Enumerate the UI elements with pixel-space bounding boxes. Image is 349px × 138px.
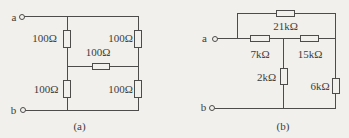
wire-b-left-riser (237, 13, 238, 38)
resistor-body-b-series-right (300, 35, 319, 42)
wire-a-bottom (25, 110, 139, 111)
figure-canvas: a b 100Ω 100Ω 100Ω 100Ω 100Ω (a) a b 21k… (0, 0, 349, 138)
terminal-b-node-icon (20, 107, 26, 113)
terminal-b-node-icon (209, 105, 215, 111)
resistor-label-b-shunt-middle: 2kΩ (257, 72, 276, 83)
caption-a: (a) (73, 120, 85, 131)
resistor-body-b-shunt-right (332, 78, 340, 94)
resistor-label-a-middle: 100Ω (86, 46, 111, 57)
resistor-body-b-series-left (250, 35, 270, 42)
resistor-label-a-upper-left: 100Ω (32, 33, 57, 44)
resistor-label-b-series-left: 7kΩ (250, 48, 269, 59)
resistor-body-a-lower-right (134, 80, 142, 98)
terminal-a-label: a (12, 11, 17, 22)
resistor-label-a-upper-right: 100Ω (108, 33, 133, 44)
terminal-b-label: b (11, 104, 17, 115)
resistor-label-b-shunt-right: 6kΩ (310, 80, 329, 91)
resistor-body-b-shunt-middle (280, 68, 288, 85)
resistor-body-b-top (276, 10, 295, 17)
resistor-body-a-upper-right (134, 30, 142, 48)
resistor-label-b-series-right: 15kΩ (298, 49, 323, 60)
terminal-a-label: a (202, 33, 207, 44)
wire-a-top (24, 16, 139, 17)
resistor-label-a-lower-left: 100Ω (34, 83, 59, 94)
terminal-b-label: b (201, 102, 207, 113)
caption-b: (b) (277, 121, 290, 132)
resistor-label-b-top: 21kΩ (273, 20, 298, 31)
resistor-body-a-upper-left (63, 30, 71, 48)
terminal-a-node-icon (212, 36, 218, 42)
resistor-body-a-middle (92, 63, 110, 70)
resistor-body-a-lower-left (63, 80, 71, 98)
wire-b-bottom (215, 108, 336, 109)
terminal-a-node-icon (19, 14, 25, 20)
resistor-label-a-lower-right: 100Ω (108, 83, 133, 94)
